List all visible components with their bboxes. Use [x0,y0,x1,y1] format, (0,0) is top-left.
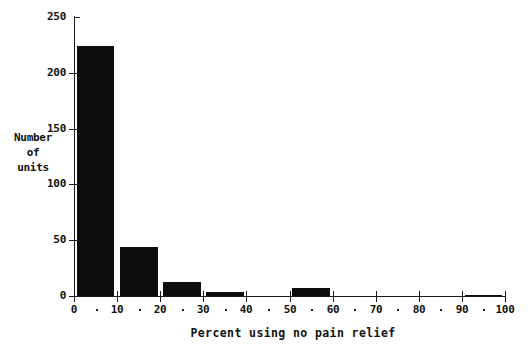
y-tick-label: 0 [0,289,66,302]
x-tick-mark [160,291,161,302]
x-tick-mark [419,291,420,302]
x-tick-label: 50 [284,303,297,316]
y-axis-title: Number of units [2,130,64,175]
x-minor-tick-mark [139,309,141,311]
x-tick-mark [203,291,204,302]
y-tick-label: 100 [0,177,66,190]
y-tick-label: 50 [0,233,66,246]
chart-figure: Number of units Percent using no pain re… [0,0,530,350]
x-tick-mark [246,291,247,302]
x-tick-mark [333,291,334,302]
y-tick-mark [69,129,80,130]
x-tick-label: 80 [413,303,426,316]
x-tick-label: 30 [197,303,210,316]
x-tick-label: 10 [111,303,124,316]
y-tick-mark [74,17,80,18]
bar [163,282,201,297]
x-tick-label: 90 [456,303,469,316]
y-tick-mark [69,240,80,241]
x-minor-tick-mark [225,309,227,311]
x-tick-label: 0 [71,303,77,316]
x-minor-tick-mark [268,309,270,311]
x-minor-tick-mark [182,309,184,311]
x-tick-label: 20 [154,303,167,316]
x-tick-mark [290,291,291,302]
x-minor-tick-mark [311,309,313,311]
x-tick-mark [462,291,463,302]
y-tick-label: 250 [0,10,66,23]
x-minor-tick-mark [96,309,98,311]
bar [120,247,158,296]
bar [465,295,503,297]
bar [206,292,244,296]
x-minor-tick-mark [440,309,442,311]
y-axis-title-line-2: of [2,145,64,160]
y-tick-mark [69,184,80,185]
x-axis-title: Percent using no pain relief [0,326,530,340]
x-tick-mark [376,291,377,302]
y-tick-label: 150 [0,122,66,135]
x-minor-tick-mark [354,309,356,311]
x-tick-mark [117,291,118,302]
x-tick-label: 100 [496,303,515,316]
x-tick-label: 60 [327,303,340,316]
x-minor-tick-mark [483,309,485,311]
bar [77,46,115,296]
plot-area [74,17,505,296]
x-tick-label: 40 [240,303,253,316]
bar [292,288,330,296]
x-tick-mark [505,291,506,302]
x-tick-mark [74,291,75,302]
y-tick-mark [69,73,80,74]
x-minor-tick-mark [397,309,399,311]
x-tick-label: 70 [370,303,383,316]
y-axis-title-line-3: units [2,160,64,175]
y-tick-label: 200 [0,66,66,79]
